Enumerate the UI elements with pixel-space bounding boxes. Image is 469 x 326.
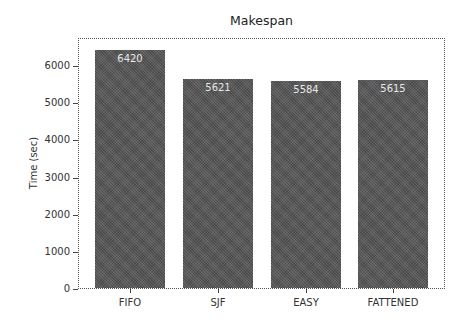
y-tick-label: 1000 <box>0 246 70 257</box>
y-tick-label: 2000 <box>0 209 70 220</box>
x-tick-label: FIFO <box>80 297 180 308</box>
bar-value-label: 5621 <box>183 82 253 93</box>
x-tick-mark <box>306 289 307 293</box>
y-tick-mark <box>73 289 78 290</box>
y-tick-label: 0 <box>0 283 70 294</box>
bar-sjf: 5621 <box>183 79 253 288</box>
y-tick-label: 5000 <box>0 97 70 108</box>
x-tick-label: EASY <box>256 297 356 308</box>
x-tick-mark <box>130 289 131 293</box>
bar-fattened: 5615 <box>358 80 428 288</box>
x-tick-mark <box>218 289 219 293</box>
x-tick-mark <box>393 289 394 293</box>
y-tick-label: 4000 <box>0 134 70 145</box>
bar-easy: 5584 <box>271 81 341 288</box>
y-tick-label: 3000 <box>0 172 70 183</box>
bar-fifo: 6420 <box>95 50 165 288</box>
x-tick-label: SJF <box>168 297 268 308</box>
plot-area: 6420 5621 5584 5615 <box>78 38 445 289</box>
x-tick-label: FATTENED <box>343 297 443 308</box>
chart-title: Makespan <box>78 13 445 28</box>
y-tick-label: 6000 <box>0 60 70 71</box>
bar-value-label: 6420 <box>95 53 165 64</box>
bar-value-label: 5584 <box>271 84 341 95</box>
bar-value-label: 5615 <box>358 83 428 94</box>
